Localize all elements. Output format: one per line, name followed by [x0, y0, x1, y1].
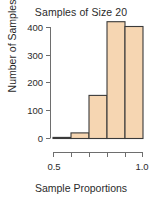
histogram-figure: Samples of Size 20 Number of Samples Sam…: [0, 0, 162, 203]
bar-bin-2: [71, 133, 89, 139]
y-tick-label-0: 0: [38, 133, 43, 144]
histogram-bars: [53, 22, 143, 139]
y-tick-label-200: 200: [27, 77, 43, 88]
y-tick-label-300: 300: [27, 50, 43, 61]
bar-bin-1: [53, 137, 71, 138]
bar-bin-3: [89, 95, 107, 138]
bar-bin-5: [125, 27, 143, 139]
plot-area: 0 100 200 300 400 0.5 1.0: [0, 0, 162, 203]
x-axis-ticks: [54, 153, 143, 158]
y-tick-label-100: 100: [27, 105, 43, 116]
x-tick-label-right: 1.0: [135, 161, 148, 172]
y-axis-ticks: [46, 28, 51, 139]
x-tick-label-left: 0.5: [47, 161, 60, 172]
y-tick-label-400: 400: [27, 22, 43, 33]
bar-bin-4: [107, 22, 125, 139]
